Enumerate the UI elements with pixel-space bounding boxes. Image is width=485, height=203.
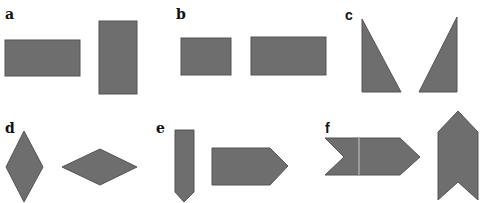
- down-pointing-pentagon: [175, 130, 194, 202]
- vertical-rectangle: [99, 21, 137, 94]
- panel-c: [362, 17, 457, 92]
- right-pointing-pentagon: [212, 148, 288, 185]
- panel-e: [175, 130, 288, 202]
- shapes-figure: [0, 0, 485, 203]
- up-pointing-chevron: [438, 111, 478, 200]
- vertical-rhombus: [6, 131, 43, 202]
- right-triangle-left: [362, 19, 401, 92]
- small-rectangle: [181, 38, 231, 75]
- panel-b: [181, 37, 326, 75]
- panel-d: [6, 131, 137, 202]
- panel-f: [325, 111, 478, 200]
- right-pointing-chevron: [325, 138, 420, 175]
- panel-a: [5, 21, 137, 94]
- large-rectangle: [251, 37, 326, 75]
- right-triangle-right: [419, 17, 457, 92]
- horizontal-rectangle: [5, 40, 80, 76]
- horizontal-rhombus: [62, 149, 137, 185]
